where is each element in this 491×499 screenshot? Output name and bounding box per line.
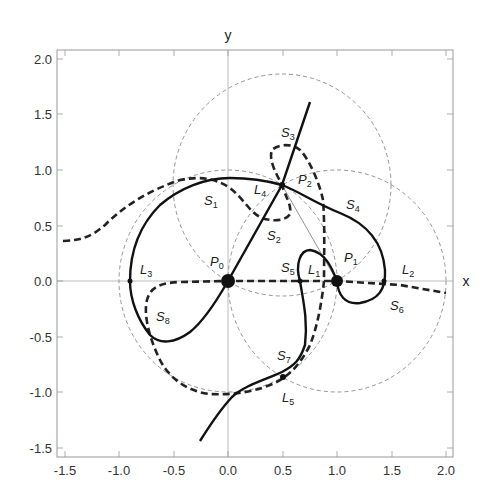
label-l4: L4 bbox=[254, 182, 266, 199]
lagrange-points bbox=[128, 279, 387, 381]
label-l5: L5 bbox=[282, 390, 294, 407]
label-s1: S1 bbox=[204, 193, 218, 210]
y-tick-labels: 2.0 1.5 1.0 0.5 0.0 -0.5 -1.0 -1.5 bbox=[30, 52, 52, 456]
x-tick-label: 1.5 bbox=[383, 463, 401, 478]
solid-curve-path bbox=[130, 178, 385, 441]
diagram-canvas: -1.5 -1.0 -0.5 0.0 0.5 1.0 1.5 2.0 2.0 1… bbox=[0, 0, 491, 499]
label-l3: L3 bbox=[140, 262, 152, 279]
label-s6: S6 bbox=[390, 298, 404, 315]
label-p0: P0 bbox=[210, 254, 224, 271]
y-tick-label: -1.5 bbox=[30, 441, 52, 456]
label-p1: P1 bbox=[344, 250, 358, 267]
y-tick-label: 0.5 bbox=[34, 219, 52, 234]
y-tick-label: -1.0 bbox=[30, 385, 52, 400]
unit-circles bbox=[119, 74, 446, 392]
l5-dot bbox=[280, 374, 286, 380]
x-tick-label: 1.0 bbox=[328, 463, 346, 478]
x-tick-label: 2.0 bbox=[437, 463, 455, 478]
x-tick-label: -0.5 bbox=[163, 463, 185, 478]
label-l2: L2 bbox=[402, 262, 414, 279]
label-s2: S2 bbox=[267, 228, 281, 245]
l2-dot bbox=[382, 279, 387, 284]
primary-p1-dot bbox=[331, 275, 343, 287]
y-tick-label: 1.0 bbox=[34, 163, 52, 178]
label-l1: L1 bbox=[308, 262, 320, 279]
primary-p2-dot bbox=[279, 182, 285, 188]
plot-frame bbox=[57, 50, 453, 457]
l3-dot bbox=[128, 279, 133, 284]
label-s7: S7 bbox=[277, 348, 291, 365]
x-tick-label: 0.0 bbox=[219, 463, 237, 478]
x-tick-label: -1.0 bbox=[108, 463, 130, 478]
y-tick-label: -0.5 bbox=[30, 330, 52, 345]
y-axis-label: y bbox=[225, 27, 232, 43]
primary-p0-dot bbox=[221, 274, 235, 288]
x-tick-label: -1.5 bbox=[54, 463, 76, 478]
label-s5: S5 bbox=[281, 260, 295, 277]
label-p2: P2 bbox=[298, 172, 312, 189]
label-s8: S8 bbox=[156, 309, 170, 326]
y-tick-label: 2.0 bbox=[34, 52, 52, 67]
y-tick-label: 1.5 bbox=[34, 107, 52, 122]
point-labels: P0 P1 P2 L1 L2 L3 L4 L5 S1 S2 S3 S4 S5 S… bbox=[140, 125, 414, 407]
frame-ticks bbox=[57, 50, 453, 457]
label-s3: S3 bbox=[281, 125, 295, 142]
x-axis-label: x bbox=[463, 273, 470, 289]
label-s4: S4 bbox=[346, 197, 360, 214]
l1-dot bbox=[298, 279, 303, 284]
x-tick-labels: -1.5 -1.0 -0.5 0.0 0.5 1.0 1.5 2.0 bbox=[54, 463, 455, 478]
y-tick-label: 0.0 bbox=[34, 274, 52, 289]
x-tick-label: 0.5 bbox=[274, 463, 292, 478]
